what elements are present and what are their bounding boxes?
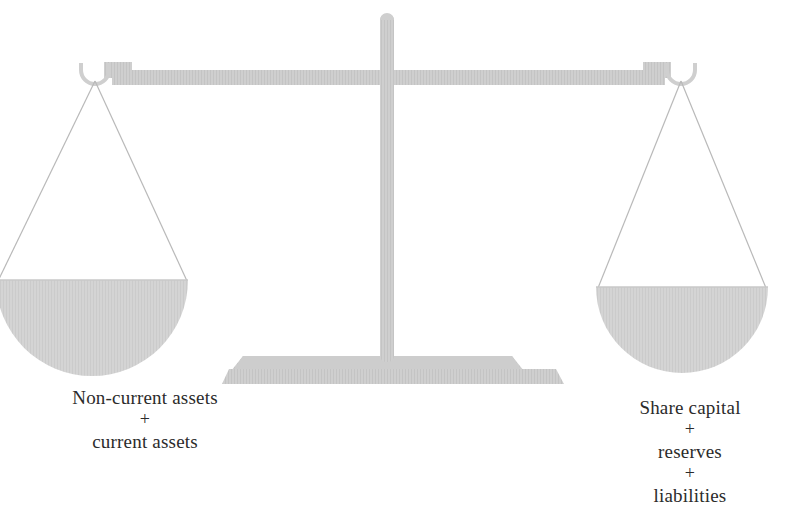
right-caption-plus-1: +: [560, 419, 785, 440]
column: [380, 13, 394, 362]
right-caption-line-3: liabilities: [560, 484, 785, 507]
left-caption-plus-1: +: [0, 409, 290, 430]
left-caption-line-1: Non-current assets: [0, 386, 290, 409]
balance-scale-diagram: Non-current assets + current assets Shar…: [0, 0, 785, 513]
left-pan-caption: Non-current assets + current assets: [0, 386, 290, 453]
right-caption-line-2: reserves: [560, 440, 785, 463]
right-pan-caption: Share capital + reserves + liabilities: [560, 396, 785, 507]
base: [222, 356, 564, 384]
right-caption-line-1: Share capital: [560, 396, 785, 419]
left-caption-line-2: current assets: [0, 430, 290, 453]
right-caption-plus-2: +: [560, 463, 785, 484]
